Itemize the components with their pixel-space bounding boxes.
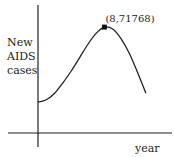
y-axis-label-line-3: cases	[7, 64, 38, 77]
peak-annotation: (8,71768)	[105, 13, 154, 24]
series-line	[38, 27, 146, 102]
chart: New AIDS cases year (8,71768)	[0, 0, 174, 157]
y-axis-label-line-2: AIDS	[6, 50, 36, 63]
x-axis-label: year	[134, 142, 160, 155]
y-axis-label-line-1: New	[7, 36, 33, 49]
peak-marker	[102, 25, 107, 30]
